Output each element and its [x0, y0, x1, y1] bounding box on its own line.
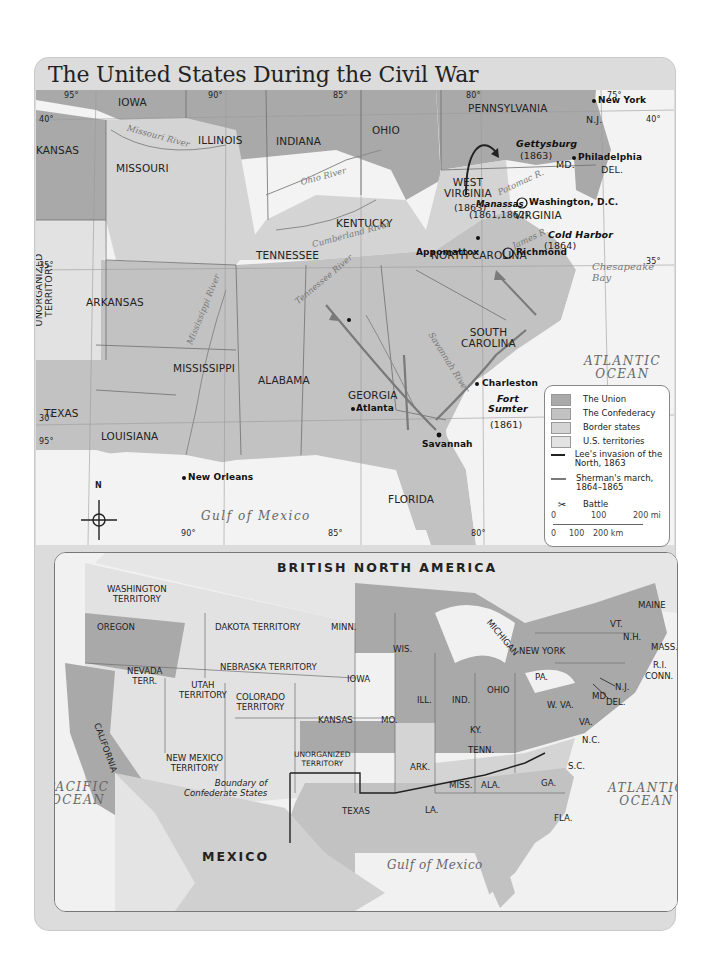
- longitude-label: 90°: [208, 92, 222, 100]
- region-ind: IND.: [452, 696, 470, 706]
- chesapeake-bay-label: Chesapeake Bay: [592, 262, 654, 283]
- region-ri: R.I.: [653, 661, 667, 671]
- state-alabama: ALABAMA: [258, 375, 310, 386]
- battle-manassas: Manassas: [476, 200, 524, 209]
- state-texas: TEXAS: [44, 408, 79, 419]
- longitude-label: 80°: [471, 530, 485, 538]
- state-indiana: INDIANA: [276, 136, 321, 147]
- state-west-virginia: WEST VIRGINIA: [444, 177, 492, 199]
- region-nevada-territory: NEVADA TERR.: [127, 667, 162, 687]
- state-georgia: GEORGIA: [348, 390, 397, 401]
- region-wva: W. VA.: [547, 701, 574, 711]
- state-ohio: OHIO: [372, 125, 400, 136]
- scale-mi-100: 100: [591, 511, 606, 520]
- region-ohio: OHIO: [487, 686, 510, 696]
- city-appomattox: Appomattox: [416, 248, 479, 257]
- state-iowa: IOWA: [118, 97, 147, 108]
- legend-item-union: The Union: [551, 394, 626, 406]
- state-louisiana: LOUISIANA: [101, 431, 158, 442]
- state-missouri: MISSOURI: [116, 163, 169, 174]
- state-florida: FLORIDA: [388, 494, 434, 505]
- confederacy-swatch: [551, 408, 571, 420]
- legend-item-border-states: Border states: [551, 422, 640, 434]
- legend-label: Sherman's march, 1864–1865: [576, 474, 663, 493]
- lee-arrow-icon: [551, 454, 565, 456]
- state-kansas: KANSAS: [36, 145, 79, 156]
- region-fla: FLA.: [554, 814, 572, 824]
- region-new-york: NEW YORK: [519, 647, 565, 657]
- scale-km-0: 0: [551, 529, 556, 538]
- region-utah-territory: UTAH TERRITORY: [179, 681, 227, 701]
- region-washington-territory: WASHINGTON TERRITORY: [107, 585, 167, 605]
- state-arkansas: ARKANSAS: [86, 297, 144, 308]
- atlantic-ocean-label: ATLANTIC OCEAN: [584, 355, 661, 380]
- city-charleston: Charleston: [482, 379, 538, 388]
- legend-item-confederacy: The Confederacy: [551, 408, 655, 420]
- state-pennsylvania: PENNSYLVANIA: [468, 103, 547, 114]
- legend-item-lee: Lee's invasion of the North, 1863: [551, 450, 663, 469]
- battle-cold-harbor: Cold Harbor: [548, 230, 613, 240]
- battle-manassas-year: (1861,1862): [469, 210, 529, 220]
- region-maine: MAINE: [638, 601, 666, 611]
- region-dakota-territory: DAKOTA TERRITORY: [215, 623, 300, 633]
- city-atlanta: Atlanta: [356, 404, 394, 413]
- region-ky: KY.: [470, 726, 482, 736]
- compass-north-label: N: [95, 482, 102, 490]
- region-minn: MINN.: [331, 623, 357, 633]
- legend-label: U.S. territories: [583, 436, 645, 446]
- state-south-carolina: SOUTH CAROLINA: [461, 327, 516, 349]
- region-kansas: KANSAS: [318, 716, 353, 726]
- region-ark: ARK.: [410, 763, 430, 773]
- region-miss: MISS.: [449, 781, 473, 791]
- region-texas: TEXAS: [342, 807, 370, 817]
- region-colorado-territory: COLORADO TERRITORY: [236, 693, 285, 713]
- legend-label: The Confederacy: [583, 408, 655, 418]
- latitude-label: 40°: [646, 116, 660, 124]
- battle-fort-sumter-year: (1861): [490, 420, 522, 430]
- map-title: The United States During the Civil War: [48, 62, 478, 87]
- region-nh: N.H.: [623, 633, 641, 643]
- pacific-ocean-label: PACIFIC OCEAN: [54, 781, 109, 806]
- legend-label: Border states: [583, 422, 640, 432]
- region-tenn: TENN.: [468, 746, 494, 756]
- sherman-arrow-icon: [551, 478, 566, 480]
- legend-label: Battle: [583, 499, 608, 509]
- longitude-label: 80°: [466, 92, 480, 100]
- battle-gettysburg-year: (1863): [520, 151, 552, 161]
- region-oregon: OREGON: [97, 623, 135, 633]
- region-va: VA.: [579, 718, 593, 728]
- region-ill: ILL.: [417, 696, 432, 706]
- region-del: DEL.: [606, 698, 626, 708]
- legend-item-battle: ✂Battle: [551, 499, 608, 510]
- confederate-boundary-label: Boundary of Confederate States: [184, 779, 267, 799]
- longitude-label: 85°: [328, 530, 342, 538]
- state-md: MD.: [556, 160, 575, 170]
- inset-atlantic-ocean-label: ATLANTIC OCEAN: [608, 782, 678, 807]
- british-north-america-label: BRITISH NORTH AMERICA: [277, 561, 497, 575]
- city-new-orleans: New Orleans: [188, 473, 253, 482]
- gulf-of-mexico-label: Gulf of Mexico: [201, 510, 311, 523]
- region-pa: PA.: [535, 673, 548, 683]
- region-ala: ALA.: [481, 781, 500, 791]
- latitude-label: 40°: [39, 116, 53, 124]
- region-sc: S.C.: [568, 762, 585, 772]
- crossed-swords-icon: ✂: [551, 499, 573, 510]
- region-vt: VT.: [610, 620, 623, 630]
- region-nebraska-territory: NEBRASKA TERRITORY: [220, 663, 317, 673]
- city-savannah: Savannah: [422, 440, 473, 449]
- state-mississippi: MISSISSIPPI: [173, 363, 235, 374]
- region-unorganized-territory: UNORGANIZED TERRITORY: [294, 751, 351, 768]
- state-del: DEL.: [601, 165, 623, 175]
- legend-label: Lee's invasion of the North, 1863: [575, 450, 663, 469]
- city-philadelphia: Philadelphia: [578, 153, 642, 162]
- battle-cold-harbor-year: (1864): [544, 241, 576, 251]
- legend-label: The Union: [583, 394, 626, 404]
- inset-gulf-of-mexico-label: Gulf of Mexico: [387, 859, 483, 872]
- battle-fort-sumter: Fort Sumter: [488, 394, 528, 414]
- longitude-label: 95°: [39, 438, 53, 446]
- longitude-label: 95°: [64, 92, 78, 100]
- state-tennessee: TENNESSEE: [256, 250, 319, 261]
- union-swatch: [551, 394, 571, 406]
- legend-item-territories: U.S. territories: [551, 436, 645, 448]
- unorganized-territory: UNORGANIZED TERRITORY: [36, 254, 54, 327]
